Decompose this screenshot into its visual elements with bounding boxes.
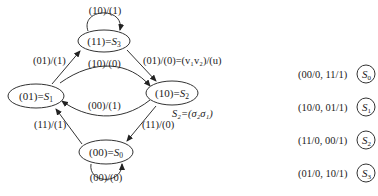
- label-s1-s2: (10)/(0): [88, 58, 121, 70]
- svg-text:(11/0, 00/1): (11/0, 00/1): [298, 135, 348, 147]
- svg-text:(01/0, 10/1): (01/0, 10/1): [298, 168, 348, 180]
- svg-text:(10)=S2: (10)=S2: [155, 87, 189, 101]
- label-s0-s1: (11)/(1): [34, 119, 67, 131]
- label-s3-s2: (01)/(0)=(v₁v₂)/(u): [143, 55, 222, 67]
- svg-text:(10/0, 01/1): (10/0, 01/1): [298, 102, 348, 114]
- state-s1: (01)=S1: [8, 84, 64, 108]
- label-s2-s1: (00)/(1): [88, 100, 121, 112]
- edge-s1-s2: [60, 66, 150, 86]
- label-s1-s3: (01)/(1): [33, 55, 66, 67]
- label-s0-self: (00)/(0): [90, 172, 123, 184]
- legend: (00/0, 11/1) S0 (10/0, 01/1) S1 (11/0, 0…: [298, 65, 375, 182]
- state-diagram: (11)=S3 (01)=S1 (10)=S2 (00)=S0 (10)/(1)…: [0, 0, 378, 196]
- legend-item-s1: (10/0, 01/1) S1: [298, 98, 375, 116]
- legend-item-s0: (00/0, 11/1) S0: [298, 65, 375, 83]
- label-s2-s0: (11)/(0): [142, 119, 175, 131]
- svg-text:(01)=S1: (01)=S1: [19, 90, 53, 104]
- svg-text:(11)=S3: (11)=S3: [87, 35, 121, 49]
- state-s2: (10)=S2: [146, 81, 198, 105]
- svg-text:(00)=S0: (00)=S0: [89, 146, 123, 160]
- svg-text:(00/0, 11/1): (00/0, 11/1): [298, 69, 348, 81]
- state-s3: (11)=S3: [78, 30, 130, 52]
- legend-item-s3: (01/0, 10/1) S3: [298, 164, 375, 182]
- state-s0: (00)=S0: [79, 140, 133, 164]
- annotation-s2: S₂=(σ₂σ₁): [172, 108, 213, 120]
- label-s3-self: (10)/(1): [89, 5, 122, 17]
- legend-item-s2: (11/0, 00/1) S2: [298, 131, 375, 149]
